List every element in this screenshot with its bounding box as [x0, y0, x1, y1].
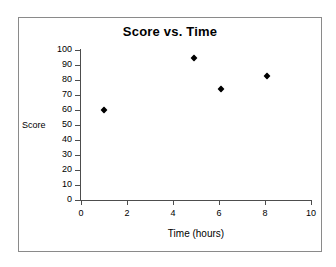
y-axis-tick-label: 80 [46, 75, 72, 84]
x-axis-tick-label: 0 [69, 208, 93, 218]
plot-area [81, 50, 311, 200]
x-axis-tick-label: 2 [115, 208, 139, 218]
x-axis-tick [173, 200, 174, 205]
x-axis-title: Time (hours) [81, 228, 311, 239]
x-axis-tick-label: 4 [161, 208, 185, 218]
x-axis-tick [219, 200, 220, 205]
y-axis-tick-label: 50 [46, 120, 72, 129]
y-axis-tick-label: 60 [46, 105, 72, 114]
x-axis-tick-label: 8 [253, 208, 277, 218]
x-axis-tick-label: 10 [299, 208, 323, 218]
chart-figure: Score vs. Time 0102030405060708090100 02… [0, 0, 336, 267]
y-axis-tick-label: 90 [46, 60, 72, 69]
y-axis-tick-label: 0 [46, 195, 72, 204]
chart-title: Score vs. Time [18, 24, 322, 39]
x-axis-tick [127, 200, 128, 205]
y-axis-tick-label: 40 [46, 135, 72, 144]
x-axis-tick [81, 200, 82, 205]
y-axis-tick-label: 10 [46, 180, 72, 189]
y-axis-tick-label: 100 [46, 45, 72, 54]
y-axis-tick-label: 70 [46, 90, 72, 99]
y-axis-title: Score [22, 120, 46, 130]
x-axis-tick [265, 200, 266, 205]
x-axis-tick-label: 6 [207, 208, 231, 218]
y-axis-tick-label: 30 [46, 150, 72, 159]
x-axis-line [75, 200, 312, 201]
x-axis-tick [311, 200, 312, 205]
y-axis-tick-label: 20 [46, 165, 72, 174]
